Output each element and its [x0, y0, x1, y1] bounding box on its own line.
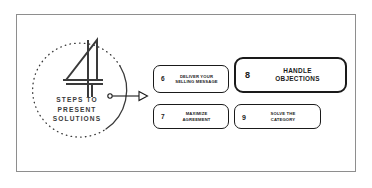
step-box-6[interactable]: 6 DELIVER YOUR SELLING MESSAGE: [153, 65, 229, 93]
step-label-7: MAXIMIZE AGREEMENT: [154, 111, 228, 122]
step-box-9[interactable]: 9 SOLVE THE CATEGORY: [234, 104, 321, 129]
step-number-8: 8: [245, 71, 250, 80]
step-box-8[interactable]: 8 HANDLE OBJECTIONS: [234, 57, 347, 93]
hub-caption-line-1: STEPS TO: [36, 95, 118, 105]
hub-caption-line-3: SOLUTIONS: [36, 114, 118, 124]
step-label-6-line-2: SELLING MESSAGE: [165, 79, 228, 84]
step-label-9: SOLVE THE CATEGORY: [235, 111, 320, 122]
hub-caption-line-2: PRESENT: [36, 105, 118, 115]
step-label-8-line-1: HANDLE: [250, 67, 345, 75]
step-number-9: 9: [242, 113, 246, 120]
hub-caption: STEPS TO PRESENT SOLUTIONS: [36, 95, 118, 124]
step-label-7-line-2: AGREEMENT: [165, 117, 228, 122]
step-number-7: 7: [161, 113, 165, 120]
diagram-graphics: [0, 0, 372, 188]
slide-canvas: STEPS TO PRESENT SOLUTIONS 6 DELIVER YOU…: [0, 0, 372, 188]
step-label-9-line-2: CATEGORY: [246, 117, 320, 122]
step-box-7[interactable]: 7 MAXIMIZE AGREEMENT: [153, 104, 229, 129]
step-label-8-line-2: OBJECTIONS: [250, 75, 345, 83]
step-number-6: 6: [161, 76, 165, 83]
step-label-6: DELIVER YOUR SELLING MESSAGE: [154, 74, 228, 85]
connector-arrowhead-icon: [139, 92, 148, 101]
step-label-8: HANDLE OBJECTIONS: [236, 67, 345, 83]
